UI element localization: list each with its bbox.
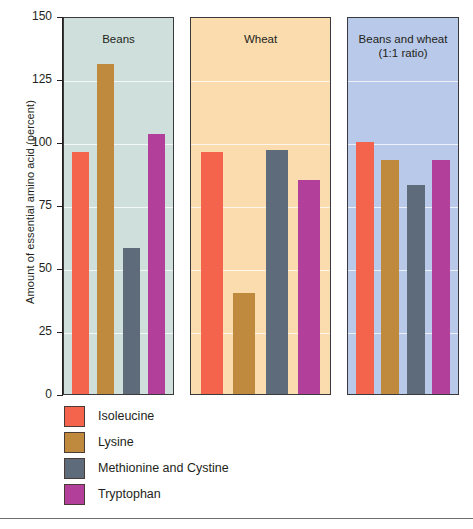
amino-acid-bar-chart: Amount of essential amino acid (percent)… bbox=[0, 0, 473, 529]
bottom-divider bbox=[0, 518, 473, 519]
panel-beans: Beans bbox=[63, 17, 174, 395]
legend-item: Isoleucine bbox=[64, 403, 229, 429]
bar-methionine-and-cystine bbox=[407, 185, 425, 394]
legend-item: Methionine and Cystine bbox=[64, 455, 229, 481]
bar-tryptophan bbox=[148, 134, 165, 394]
bar-methionine-and-cystine bbox=[266, 150, 288, 394]
legend-label: Methionine and Cystine bbox=[98, 461, 229, 475]
legend-item: Tryptophan bbox=[64, 481, 229, 507]
panel-wheat: Wheat bbox=[190, 17, 331, 395]
panel-title-beans-and-wheat: Beans and wheat (1:1 ratio) bbox=[348, 32, 458, 61]
legend-label: Isoleucine bbox=[98, 409, 154, 423]
legend-swatch bbox=[64, 432, 85, 453]
y-axis-tick-label: 100 bbox=[18, 136, 52, 148]
legend-label: Lysine bbox=[98, 435, 134, 449]
y-axis-tick-label: 25 bbox=[18, 325, 52, 337]
bar-tryptophan bbox=[298, 180, 320, 394]
chart-legend: IsoleucineLysineMethionine and CystineTr… bbox=[64, 403, 229, 507]
legend-swatch bbox=[64, 406, 85, 427]
panel-title-beans: Beans bbox=[64, 32, 173, 46]
panel-beans-and-wheat: Beans and wheat (1:1 ratio) bbox=[347, 17, 459, 395]
y-axis-tick-label: 125 bbox=[18, 73, 52, 85]
y-axis-tick-label: 50 bbox=[18, 262, 52, 274]
bar-isoleucine bbox=[72, 152, 89, 394]
legend-label: Tryptophan bbox=[98, 487, 161, 501]
y-axis-tick-label: 0 bbox=[18, 388, 52, 400]
bar-isoleucine bbox=[356, 142, 374, 394]
legend-item: Lysine bbox=[64, 429, 229, 455]
panel-title-wheat: Wheat bbox=[191, 32, 330, 46]
y-axis-tick-label: 150 bbox=[18, 10, 52, 22]
legend-swatch bbox=[64, 458, 85, 479]
bar-group-beans bbox=[64, 18, 173, 394]
bar-lysine bbox=[233, 293, 255, 394]
y-axis-tick-mark bbox=[57, 395, 63, 396]
legend-swatch bbox=[64, 484, 85, 505]
bar-group-beans-and-wheat bbox=[348, 18, 458, 394]
bar-lysine bbox=[97, 64, 114, 394]
y-axis-tick-label: 75 bbox=[18, 199, 52, 211]
bar-isoleucine bbox=[201, 152, 223, 394]
bar-lysine bbox=[381, 160, 399, 394]
bar-tryptophan bbox=[432, 160, 450, 394]
bar-group-wheat bbox=[191, 18, 330, 394]
bar-methionine-and-cystine bbox=[123, 248, 140, 394]
